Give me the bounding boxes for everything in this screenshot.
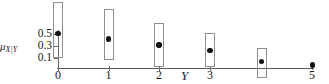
point-marker-y5: [310, 62, 315, 67]
point-marker-y1: [106, 36, 111, 41]
interval-box-y1: [104, 9, 114, 60]
point-marker-y0: [55, 31, 60, 36]
plot-area: [0, 0, 329, 84]
point-marker-y3: [207, 48, 212, 53]
interval-box-y0: [53, 2, 63, 59]
point-marker-y2: [156, 42, 161, 47]
conditional-mean-chart: 0.5 0.3 0.1 μX|Y 0 1 2 3 5 Y: [0, 0, 329, 84]
